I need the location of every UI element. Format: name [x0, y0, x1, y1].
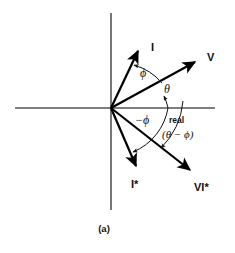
negative-phi-label: −ϕ — [135, 113, 149, 127]
conjugate-current-phasor-label: I* — [131, 178, 139, 190]
canvas-background — [0, 0, 235, 253]
figure-caption: (a) — [98, 223, 110, 234]
theta-label: θ — [164, 82, 170, 96]
complex-power-phasor-label: VI* — [194, 181, 209, 193]
phasor-diagram: I V I* VI* ϕ θ −ϕ real (θ − ϕ) (a) — [0, 0, 235, 253]
figure-container: I V I* VI* ϕ θ −ϕ real (θ − ϕ) (a) — [0, 0, 235, 253]
real-axis-label: real — [169, 115, 184, 125]
voltage-phasor-label: V — [207, 51, 215, 63]
phi-label: ϕ — [140, 66, 146, 80]
theta-minus-phi-label: (θ − ϕ) — [162, 128, 194, 141]
current-phasor-label: I — [151, 41, 154, 53]
